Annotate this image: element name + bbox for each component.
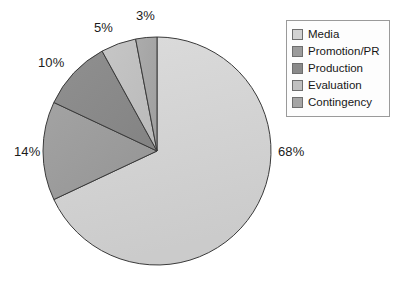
legend-item-production[interactable]: Production bbox=[292, 60, 389, 77]
legend-label-contingency: Contingency bbox=[308, 97, 372, 109]
slice-label-production: 10% bbox=[38, 55, 64, 70]
legend-label-promotion: Promotion/PR bbox=[308, 46, 380, 58]
legend-item-promotion[interactable]: Promotion/PR bbox=[292, 43, 389, 60]
slice-label-contingency: 3% bbox=[136, 8, 155, 23]
pie-slice-group bbox=[43, 37, 271, 265]
slice-label-media: 68% bbox=[278, 144, 304, 159]
legend-swatch-contingency bbox=[292, 97, 303, 108]
legend-label-media: Media bbox=[308, 29, 339, 41]
legend-swatch-production bbox=[292, 63, 303, 74]
slice-label-promotion: 14% bbox=[14, 144, 40, 159]
legend-swatch-evaluation bbox=[292, 80, 303, 91]
legend-swatch-media bbox=[292, 29, 303, 40]
slice-label-evaluation: 5% bbox=[94, 20, 113, 35]
legend-label-production: Production bbox=[308, 63, 363, 75]
legend-item-evaluation[interactable]: Evaluation bbox=[292, 77, 389, 94]
legend-label-evaluation: Evaluation bbox=[308, 80, 362, 92]
legend-item-contingency[interactable]: Contingency bbox=[292, 94, 389, 111]
pie-chart-figure: 68% 14% 10% 5% 3% Media Promotion/PR Pro… bbox=[0, 0, 404, 282]
chart-legend: Media Promotion/PR Production Evaluation… bbox=[286, 20, 390, 117]
legend-item-media[interactable]: Media bbox=[292, 26, 389, 43]
legend-swatch-promotion bbox=[292, 46, 303, 57]
